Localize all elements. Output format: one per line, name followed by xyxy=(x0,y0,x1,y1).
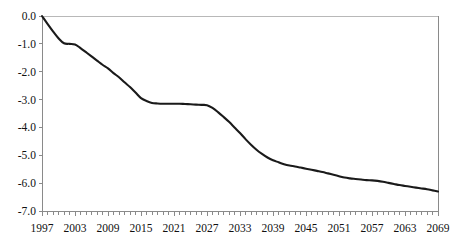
x-tick-label: 2027 xyxy=(196,222,219,234)
x-tick-label: 2063 xyxy=(394,222,417,234)
y-tick-label: 0.0 xyxy=(22,10,37,22)
y-tick-label: -2.0 xyxy=(18,66,36,78)
x-tick-label: 2051 xyxy=(328,222,351,234)
x-tick-label: 2033 xyxy=(229,222,252,234)
y-tick-label: -5.0 xyxy=(18,149,36,161)
x-tick-label: 2039 xyxy=(262,222,285,234)
chart-container: 0.0-1.0-2.0-3.0-4.0-5.0-6.0-7.0 19972003… xyxy=(0,0,452,242)
x-tick-label: 2057 xyxy=(361,222,384,234)
x-tick-label: 2045 xyxy=(295,222,318,234)
x-tick-label: 2021 xyxy=(163,222,186,234)
y-tick-label: -3.0 xyxy=(18,94,36,106)
x-tick-label: 2015 xyxy=(130,222,153,234)
x-tick-label: 1997 xyxy=(31,222,54,234)
x-tick-label: 2003 xyxy=(64,222,87,234)
y-tick-label: -4.0 xyxy=(18,121,36,133)
y-tick-label: -7.0 xyxy=(18,205,36,217)
y-tick-label: -1.0 xyxy=(18,38,36,50)
y-tick-label: -6.0 xyxy=(18,177,36,189)
x-tick-label: 2009 xyxy=(97,222,120,234)
chart-background xyxy=(0,0,452,242)
line-chart: 0.0-1.0-2.0-3.0-4.0-5.0-6.0-7.0 19972003… xyxy=(0,0,452,242)
x-tick-label: 2069 xyxy=(427,222,450,234)
